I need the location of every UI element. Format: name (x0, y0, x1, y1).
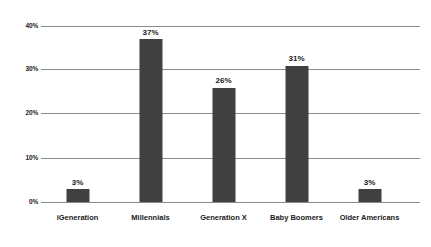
y-tick-label-40: 40% (4, 23, 38, 30)
y-tick-label-10: 10% (4, 155, 38, 162)
bar-value-igeneration: 3% (72, 179, 84, 187)
x-axis: iGeneration Millennials Generation X Bab… (41, 214, 420, 230)
bar-millennials[interactable] (139, 39, 162, 202)
bar-older-americans[interactable] (358, 189, 381, 202)
y-tick-label-20: 20% (4, 110, 38, 117)
bar-value-baby-boomers: 31% (288, 55, 304, 63)
bar-value-generation-x: 26% (215, 77, 231, 85)
y-axis: 40% 30% 20% 10% 0% (0, 20, 38, 202)
y-tick-label-30: 30% (4, 66, 38, 73)
x-tick-label-older-americans: Older Americans (325, 214, 415, 222)
bar-group-igeneration: 3% (41, 20, 114, 202)
bar-group-older-americans: 3% (333, 20, 406, 202)
bar-value-older-americans: 3% (364, 179, 376, 187)
bar-group-millennials: 37% (114, 20, 187, 202)
plot-area: 3% 37% 26% 31% 3% (41, 20, 420, 202)
bar-generation-x[interactable] (212, 88, 235, 202)
bar-baby-boomers[interactable] (285, 66, 308, 202)
bar-group-baby-boomers: 31% (260, 20, 333, 202)
bar-igeneration[interactable] (66, 189, 89, 202)
bar-chart: 40% 30% 20% 10% 0% 3% 37% 26% 31% (0, 0, 431, 247)
bar-group-generation-x: 26% (187, 20, 260, 202)
bar-value-millennials: 37% (142, 29, 158, 37)
y-tick-label-0: 0% (4, 198, 38, 205)
